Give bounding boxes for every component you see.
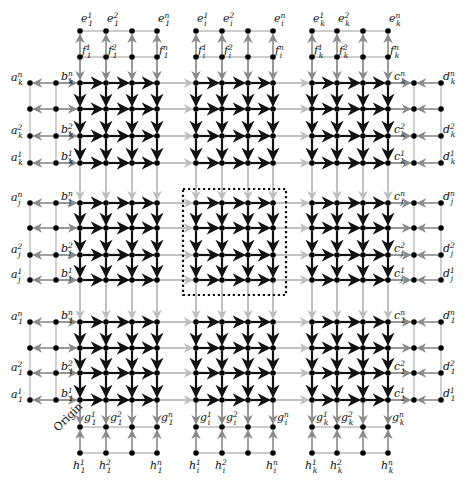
h-vertex-label: h21	[99, 458, 112, 475]
side-vertex	[53, 106, 59, 112]
e-vertex-label: enk	[389, 11, 401, 28]
grid-vertex	[334, 80, 340, 86]
grid-vertex	[77, 200, 83, 206]
grid-vertex	[309, 252, 315, 258]
side-vertex	[411, 200, 417, 206]
grid-vertex	[154, 345, 160, 351]
grid-vertex	[77, 345, 83, 351]
end-vertex	[129, 450, 135, 456]
f-vertex-label: f21	[107, 43, 118, 60]
grid-vertex	[193, 277, 199, 283]
grid-vertex	[360, 80, 366, 86]
e-vertex-label: e1i	[197, 11, 208, 28]
end-vertex	[129, 424, 135, 430]
a-vertex-label: a1k	[11, 150, 23, 167]
grid-vertex	[334, 397, 340, 403]
grid-vertex	[360, 252, 366, 258]
grid-vertex	[385, 80, 391, 86]
grid-vertex	[360, 397, 366, 403]
a-vertex-label: ank	[11, 70, 23, 87]
d-vertex-label: d11	[443, 386, 456, 403]
grid-vertex	[129, 277, 135, 283]
end-vertex	[103, 424, 109, 430]
c-vertex-label: cn1	[394, 308, 406, 325]
h-vertex-label: h11	[73, 458, 86, 475]
grid-vertex	[154, 200, 160, 206]
grid-vertex	[334, 370, 340, 376]
grid-vertex	[309, 106, 315, 112]
side-vertex	[53, 252, 59, 258]
grid-vertex	[270, 225, 276, 231]
grid-vertex	[193, 106, 199, 112]
grid-vertex	[129, 345, 135, 351]
end-vertex	[360, 28, 366, 34]
end-vertex	[77, 450, 83, 456]
grid-vertex	[129, 319, 135, 325]
g-vertex-label: g1k	[316, 410, 329, 427]
end-vertex	[154, 450, 160, 456]
end-vertex	[219, 28, 225, 34]
a-vertex-label: a2j	[11, 242, 23, 259]
grid-vertex	[103, 319, 109, 325]
grid-vertex	[270, 200, 276, 206]
grid-vertex	[129, 160, 135, 166]
end-vertex	[360, 54, 366, 60]
side-vertex	[27, 397, 33, 403]
grid-vertex	[193, 252, 199, 258]
grid-vertex	[309, 397, 315, 403]
e-vertex-label: e2i	[223, 11, 235, 28]
b-vertex-label: bnk	[61, 69, 74, 86]
grid-vertex	[77, 133, 83, 139]
grid-vertex	[334, 225, 340, 231]
grid-vertex	[219, 277, 225, 283]
grid-vertex	[385, 397, 391, 403]
end-vertex	[193, 450, 199, 456]
grid-vertex	[360, 277, 366, 283]
end-vertex	[360, 424, 366, 430]
end-vertex	[270, 424, 276, 430]
e-vertex-label: e21	[107, 11, 119, 28]
end-vertex	[334, 28, 340, 34]
grid-vertex	[77, 80, 83, 86]
end-vertex	[270, 28, 276, 34]
grid-vertex	[129, 133, 135, 139]
grid-graph-diagram: ankbnkcnkdnka2kb2kc2kd2ka1kb1kc1kd1kanjb…	[0, 0, 469, 484]
grid-vertex	[193, 80, 199, 86]
grid-vertex	[77, 160, 83, 166]
h-vertex-label: h1k	[305, 458, 318, 475]
a-vertex-label: an1	[11, 309, 23, 326]
grid-vertex	[219, 133, 225, 139]
grid-vertex	[103, 397, 109, 403]
e-vertex-label: eni	[274, 11, 286, 28]
side-vertex	[27, 225, 33, 231]
end-vertex	[360, 450, 366, 456]
h-vertex-label: hnk	[381, 458, 394, 475]
grid-vertex	[270, 319, 276, 325]
grid-vertex	[77, 370, 83, 376]
grid-vertex	[193, 370, 199, 376]
h-vertex-label: hni	[266, 458, 278, 475]
grid-vertex	[245, 133, 251, 139]
d-vertex-label: dnj	[443, 189, 455, 206]
grid-vertex	[309, 370, 315, 376]
grid-vertex	[245, 345, 251, 351]
grid-vertex	[219, 200, 225, 206]
grid-graph-canvas: ankbnkcnkdnka2kb2kc2kd2ka1kb1kc1kd1kanjb…	[0, 0, 469, 484]
g-vertex-label: gni	[277, 410, 289, 427]
grid-vertex	[360, 160, 366, 166]
end-vertex	[385, 424, 391, 430]
grid-vertex	[385, 106, 391, 112]
grid-vertex	[103, 370, 109, 376]
end-vertex	[219, 424, 225, 430]
grid-vertex	[309, 160, 315, 166]
grid-vertex	[245, 106, 251, 112]
end-vertex	[245, 54, 251, 60]
d-vertex-label: d2j	[443, 241, 455, 258]
side-vertex	[53, 225, 59, 231]
grid-vertex	[360, 106, 366, 112]
side-vertex	[27, 319, 33, 325]
grid-vertex	[334, 252, 340, 258]
end-vertex	[219, 450, 225, 456]
side-vertex	[27, 277, 33, 283]
grid-vertex	[154, 370, 160, 376]
